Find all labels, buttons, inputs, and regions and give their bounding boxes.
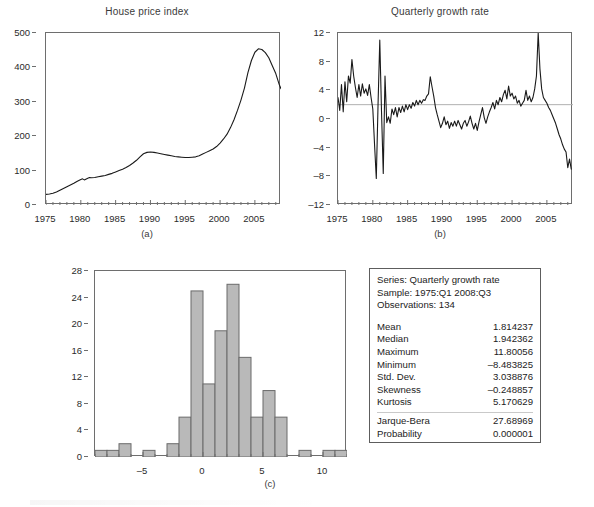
line-series-house-price-index	[46, 33, 281, 205]
y-tick-label: 8	[319, 55, 324, 66]
y-tick-label: –8	[313, 170, 324, 181]
stats-sample-label: Sample: 1975:Q1 2008:Q3	[377, 287, 533, 300]
panel-histogram: 0481216202428 –50510 (c)	[60, 262, 360, 507]
stat-value: 5.170629	[493, 396, 533, 409]
y-tick-mark	[326, 118, 330, 119]
stat-key: Kurtosis	[377, 396, 412, 409]
stat-key: Median	[377, 333, 408, 346]
x-tick-label: 2000	[500, 213, 521, 224]
panel-quarterly-growth-rate: Quarterly growth rate –12–8–404812 19751…	[300, 0, 594, 250]
y-tick-label: 0	[25, 199, 30, 210]
stat-row: Probability0.000001	[377, 428, 533, 441]
stats-header: Series: Quarterly growth rate Sample: 19…	[377, 274, 533, 312]
stat-key: Mean	[377, 321, 401, 334]
x-tick-label: 0	[199, 465, 204, 476]
histogram-bar	[275, 417, 287, 457]
histogram-bar	[215, 331, 227, 457]
x-tick-label: 1975	[34, 213, 55, 224]
stat-row: Maximum11.80056	[377, 346, 533, 359]
histogram-bar	[167, 444, 179, 457]
y-tick-label: 200	[14, 130, 30, 141]
histogram-bar	[179, 417, 191, 457]
x-tick-label: 10	[317, 465, 328, 476]
stat-row: Kurtosis5.170629	[377, 396, 533, 409]
y-tick-mark	[326, 175, 330, 176]
y-tick-mark	[84, 376, 88, 377]
stat-key: Probability	[377, 428, 422, 441]
y-axis-labels-c: 0481216202428	[60, 262, 91, 462]
y-tick-label: 12	[313, 27, 324, 38]
y-tick-label: 0	[319, 113, 324, 124]
x-tick-label: 2005	[243, 213, 264, 224]
chart-title-a: House price index	[0, 6, 294, 17]
stat-value: 11.80056	[494, 346, 533, 359]
plot-area-a	[45, 32, 280, 204]
y-tick-mark	[326, 204, 330, 205]
stat-key: Skewness	[377, 384, 421, 397]
y-tick-mark	[84, 429, 88, 430]
y-tick-label: 400	[14, 61, 30, 72]
x-tick-label: 1985	[396, 213, 417, 224]
histogram-bars	[95, 271, 347, 457]
y-tick-mark	[32, 204, 36, 205]
stat-value: 0.000001	[493, 428, 533, 441]
y-tick-mark	[32, 135, 36, 136]
stat-key: Jarque-Bera	[377, 415, 430, 428]
y-tick-mark	[84, 270, 88, 271]
y-tick-label: 4	[77, 424, 82, 435]
y-tick-label: 16	[71, 344, 82, 355]
x-axis-labels-c: –50510	[94, 460, 346, 476]
histogram-bar	[227, 284, 239, 457]
plot-area-b	[337, 32, 572, 204]
histogram-bar	[335, 450, 347, 457]
stat-value: 3.038876	[493, 371, 533, 384]
stat-row: Mean1.814237	[377, 321, 533, 334]
y-tick-label: 500	[14, 27, 30, 38]
stat-value: –8.483825	[488, 359, 533, 372]
x-tick-label: 1975	[326, 213, 347, 224]
y-tick-mark	[326, 147, 330, 148]
y-tick-label: 0	[77, 451, 82, 462]
y-tick-mark	[84, 350, 88, 351]
x-tick-label: 1980	[361, 213, 382, 224]
stat-value: 27.68969	[493, 415, 533, 428]
x-tick-label: 2000	[208, 213, 229, 224]
series-path	[338, 33, 571, 178]
stat-row: Minimum–8.483825	[377, 359, 533, 372]
series-path	[46, 49, 281, 195]
panel-caption-b: (b)	[300, 228, 580, 239]
stats-rows: Mean1.814237Median1.942362Maximum11.8005…	[377, 321, 533, 409]
x-tick-label: 1985	[104, 213, 125, 224]
x-axis-labels-a: 1975198019851990199520002005	[45, 208, 280, 224]
y-tick-mark	[84, 323, 88, 324]
y-tick-label: 20	[71, 318, 82, 329]
y-tick-label: –12	[308, 199, 324, 210]
histogram-bar	[263, 391, 275, 457]
histogram-bar	[107, 450, 119, 457]
stats-divider	[377, 412, 533, 413]
y-tick-mark	[32, 101, 36, 102]
y-tick-label: 12	[71, 371, 82, 382]
panel-house-price-index: House price index 0100200300400500 19751…	[0, 0, 294, 250]
histogram-bar	[203, 384, 215, 457]
stat-row: Skewness–0.248857	[377, 384, 533, 397]
histogram-bar	[239, 357, 251, 457]
plot-area-c	[94, 270, 346, 456]
y-tick-label: 24	[71, 291, 82, 302]
y-tick-mark	[84, 403, 88, 404]
histogram-bar	[191, 291, 203, 457]
y-tick-label: –4	[313, 141, 324, 152]
y-tick-mark	[32, 66, 36, 67]
stats-series-label: Series: Quarterly growth rate	[377, 274, 533, 287]
histogram-bar	[251, 417, 263, 457]
y-tick-mark	[326, 32, 330, 33]
y-tick-mark	[84, 456, 88, 457]
x-tick-label: 1980	[69, 213, 90, 224]
stat-value: 1.942362	[493, 333, 533, 346]
stat-key: Std. Dev.	[377, 371, 416, 384]
x-tick-label: –5	[137, 465, 148, 476]
x-tick-label: 1995	[174, 213, 195, 224]
histogram-bar	[119, 444, 131, 457]
x-tick-label: 1990	[139, 213, 160, 224]
x-tick-label: 5	[259, 465, 264, 476]
